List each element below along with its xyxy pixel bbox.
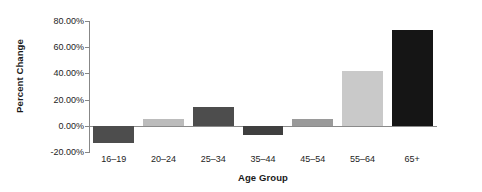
x-axis-tick-label: 16–19 <box>101 154 126 164</box>
bar <box>342 71 383 125</box>
y-axis-tick-label: 0.00% <box>30 121 84 131</box>
x-axis-tick-label: 45–54 <box>300 154 325 164</box>
bar <box>392 30 433 126</box>
x-axis-tick-label: 25–34 <box>201 154 226 164</box>
y-axis-tick <box>85 152 90 153</box>
x-axis-tick-label: 20–24 <box>151 154 176 164</box>
x-axis-tick-labels: 16–1920–2425–3435–4445–5455–6465+ <box>89 154 437 168</box>
x-axis-tick-label: 35–44 <box>250 154 275 164</box>
bar <box>243 126 284 135</box>
x-axis-tick-label: 65+ <box>405 154 420 164</box>
y-axis-tick-label: 60.00% <box>30 42 84 52</box>
bar <box>193 107 234 125</box>
y-axis-tick-label: 80.00% <box>30 16 84 26</box>
y-axis-tick-label: -20.00% <box>30 147 84 157</box>
y-axis-tick <box>85 126 90 127</box>
bar <box>292 119 333 126</box>
y-axis-tick <box>85 47 90 48</box>
bar <box>143 119 184 126</box>
bar-chart: Percent Change 80.00%60.00%40.00%20.00%0… <box>0 0 482 192</box>
y-axis-title: Percent Change <box>14 28 28 124</box>
y-axis-tick-labels: 80.00%60.00%40.00%20.00%0.00%-20.00% <box>30 0 84 192</box>
x-axis-tick-label: 55–64 <box>350 154 375 164</box>
plot-area <box>89 12 437 152</box>
y-axis-tick <box>85 100 90 101</box>
y-axis-tick-label: 40.00% <box>30 68 84 78</box>
bar-series <box>89 12 437 152</box>
y-axis-tick <box>85 21 90 22</box>
y-axis-tick-label: 20.00% <box>30 95 84 105</box>
y-axis-tick <box>85 73 90 74</box>
x-axis-title: Age Group <box>89 172 437 183</box>
bar <box>93 126 134 143</box>
